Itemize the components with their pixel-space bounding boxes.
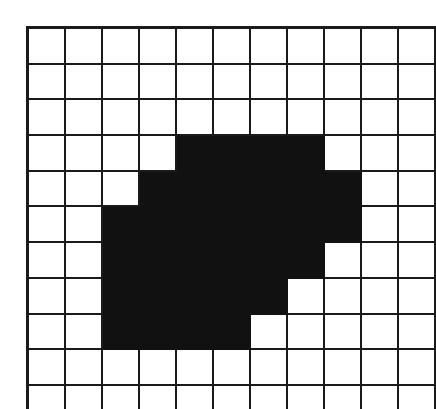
- grid-cell-empty[interactable]: [324, 349, 361, 385]
- grid-cell-filled[interactable]: [176, 242, 213, 278]
- grid-cell-empty[interactable]: [213, 385, 250, 409]
- grid-cell-empty[interactable]: [28, 64, 66, 100]
- grid-cell-empty[interactable]: [28, 349, 66, 385]
- grid-cell-empty[interactable]: [65, 314, 102, 350]
- grid-cell-filled[interactable]: [102, 242, 139, 278]
- grid-cell-filled[interactable]: [139, 171, 176, 207]
- grid-cell-empty[interactable]: [28, 242, 66, 278]
- grid-cell-filled[interactable]: [102, 206, 139, 242]
- grid-cell-empty[interactable]: [287, 28, 324, 64]
- grid-cell-empty[interactable]: [102, 99, 139, 135]
- grid-cell-empty[interactable]: [324, 28, 361, 64]
- grid-cell-empty[interactable]: [250, 349, 287, 385]
- grid-cell-empty[interactable]: [65, 64, 102, 100]
- grid-cell-filled[interactable]: [213, 242, 250, 278]
- grid-cell-empty[interactable]: [398, 242, 436, 278]
- grid-cell-filled[interactable]: [176, 206, 213, 242]
- grid-cell-empty[interactable]: [176, 385, 213, 409]
- grid-cell-empty[interactable]: [250, 28, 287, 64]
- grid-cell-empty[interactable]: [139, 64, 176, 100]
- grid-cell-empty[interactable]: [398, 385, 436, 409]
- grid-cell-empty[interactable]: [250, 64, 287, 100]
- grid-cell-empty[interactable]: [176, 99, 213, 135]
- grid-cell-empty[interactable]: [324, 135, 361, 171]
- grid-cell-filled[interactable]: [250, 135, 287, 171]
- grid-cell-empty[interactable]: [398, 135, 436, 171]
- grid-cell-empty[interactable]: [361, 135, 398, 171]
- grid-cell-filled[interactable]: [324, 171, 361, 207]
- grid-cell-filled[interactable]: [213, 206, 250, 242]
- grid-cell-empty[interactable]: [361, 349, 398, 385]
- grid-cell-empty[interactable]: [213, 28, 250, 64]
- grid-cell-filled[interactable]: [287, 171, 324, 207]
- grid-cell-empty[interactable]: [28, 314, 66, 350]
- grid-cell-empty[interactable]: [65, 135, 102, 171]
- grid-cell-filled[interactable]: [176, 171, 213, 207]
- grid-cell-empty[interactable]: [287, 99, 324, 135]
- grid-cell-empty[interactable]: [361, 242, 398, 278]
- grid-cell-empty[interactable]: [65, 99, 102, 135]
- grid-cell-empty[interactable]: [398, 314, 436, 350]
- grid-cell-filled[interactable]: [139, 278, 176, 314]
- grid-cell-empty[interactable]: [361, 99, 398, 135]
- grid-cell-empty[interactable]: [287, 314, 324, 350]
- grid-cell-filled[interactable]: [324, 206, 361, 242]
- grid-cell-empty[interactable]: [213, 349, 250, 385]
- grid-cell-filled[interactable]: [213, 135, 250, 171]
- grid-cell-filled[interactable]: [213, 314, 250, 350]
- grid-cell-empty[interactable]: [102, 135, 139, 171]
- grid-cell-filled[interactable]: [213, 278, 250, 314]
- grid-cell-empty[interactable]: [287, 64, 324, 100]
- grid-cell-empty[interactable]: [361, 64, 398, 100]
- grid-cell-empty[interactable]: [65, 349, 102, 385]
- grid-cell-empty[interactable]: [28, 206, 66, 242]
- grid-cell-empty[interactable]: [361, 28, 398, 64]
- grid-cell-empty[interactable]: [398, 28, 436, 64]
- grid-cell-empty[interactable]: [250, 385, 287, 409]
- grid-cell-filled[interactable]: [139, 206, 176, 242]
- grid-cell-empty[interactable]: [139, 99, 176, 135]
- grid-cell-empty[interactable]: [361, 314, 398, 350]
- grid-cell-empty[interactable]: [324, 314, 361, 350]
- grid-cell-empty[interactable]: [250, 99, 287, 135]
- grid-cell-filled[interactable]: [213, 171, 250, 207]
- grid-cell-empty[interactable]: [28, 278, 66, 314]
- grid-cell-empty[interactable]: [398, 171, 436, 207]
- grid-cell-empty[interactable]: [287, 385, 324, 409]
- grid-cell-empty[interactable]: [102, 171, 139, 207]
- grid-cell-filled[interactable]: [102, 278, 139, 314]
- grid-cell-filled[interactable]: [139, 242, 176, 278]
- grid-cell-empty[interactable]: [102, 28, 139, 64]
- grid-cell-filled[interactable]: [287, 242, 324, 278]
- grid-cell-empty[interactable]: [398, 99, 436, 135]
- grid-cell-empty[interactable]: [176, 28, 213, 64]
- grid-cell-empty[interactable]: [361, 206, 398, 242]
- grid-cell-empty[interactable]: [65, 385, 102, 409]
- grid-cell-filled[interactable]: [102, 314, 139, 350]
- grid-cell-empty[interactable]: [139, 135, 176, 171]
- grid-cell-filled[interactable]: [139, 314, 176, 350]
- grid-cell-empty[interactable]: [398, 349, 436, 385]
- grid-cell-empty[interactable]: [176, 64, 213, 100]
- grid-cell-filled[interactable]: [176, 278, 213, 314]
- grid-cell-empty[interactable]: [102, 64, 139, 100]
- grid-cell-empty[interactable]: [213, 64, 250, 100]
- grid-cell-empty[interactable]: [28, 99, 66, 135]
- grid-cell-empty[interactable]: [65, 278, 102, 314]
- grid-cell-empty[interactable]: [361, 278, 398, 314]
- grid-cell-empty[interactable]: [324, 278, 361, 314]
- grid-cell-empty[interactable]: [102, 385, 139, 409]
- grid-cell-empty[interactable]: [28, 28, 66, 64]
- grid-cell-empty[interactable]: [361, 385, 398, 409]
- grid-cell-filled[interactable]: [250, 278, 287, 314]
- grid-cell-empty[interactable]: [398, 278, 436, 314]
- grid-cell-filled[interactable]: [287, 135, 324, 171]
- grid-cell-filled[interactable]: [176, 135, 213, 171]
- grid-cell-empty[interactable]: [139, 28, 176, 64]
- grid-cell-empty[interactable]: [361, 171, 398, 207]
- grid-cell-empty[interactable]: [250, 314, 287, 350]
- grid-cell-empty[interactable]: [65, 206, 102, 242]
- grid-cell-empty[interactable]: [287, 278, 324, 314]
- grid-cell-empty[interactable]: [28, 135, 66, 171]
- grid-cell-empty[interactable]: [65, 28, 102, 64]
